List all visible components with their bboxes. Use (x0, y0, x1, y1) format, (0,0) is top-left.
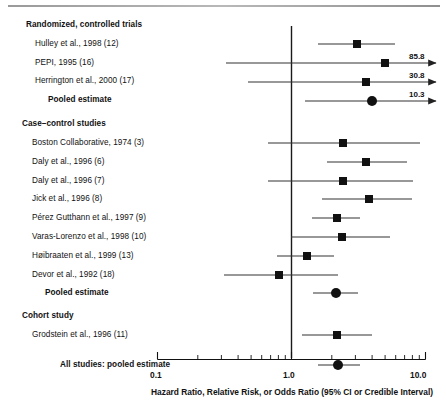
point-estimate-marker-jick (365, 195, 373, 203)
point-estimate-marker-daly-7 (339, 177, 347, 185)
forest-row-pooled-case-control (313, 288, 358, 298)
point-estimate-marker-grodstein (333, 331, 341, 339)
x-axis (158, 352, 426, 360)
point-estimate-marker-boston-collaborative (339, 139, 347, 147)
forest-row-boston-collaborative (268, 139, 420, 147)
forest-row-hoibraaten (277, 252, 334, 260)
annotation-pepi-upper-bound: 85.8 (409, 52, 425, 61)
forest-plot-figure: Randomized, controlled trials Hulley et … (0, 0, 447, 403)
group-header-randomized-trials: Randomized, controlled trials (26, 20, 142, 30)
study-label-varas-lorenzo: Varas-Lorenzo et al., 1998 (10) (32, 232, 146, 242)
forest-row-daly-7 (268, 177, 413, 185)
forest-row-jick (322, 195, 412, 203)
pooled-estimate-marker-all-studies (333, 360, 343, 370)
point-estimate-marker-daly-6 (362, 158, 370, 166)
study-label-hulley: Hulley et al., 1998 (12) (35, 39, 119, 49)
all-studies-pooled-label: All studies: pooled estimate (60, 360, 170, 370)
pooled-label-randomized-trials: Pooled estimate (48, 95, 112, 105)
axis-caption: Hazard Ratio, Relative Risk, or Odds Rat… (151, 387, 433, 397)
axis-tick-label-left: 0.1 (150, 370, 162, 380)
point-estimate-marker-varas-lorenzo (338, 233, 346, 241)
forest-row-perez-gutthann (312, 214, 360, 222)
point-estimate-marker-hulley (353, 40, 361, 48)
pooled-label-case-control: Pooled estimate (45, 288, 109, 298)
axis-tick-label-mid: 1.0 (283, 370, 295, 380)
forest-row-devor (224, 271, 338, 279)
forest-row-daly-6 (327, 158, 407, 166)
group-header-cohort-study: Cohort study (22, 311, 74, 321)
study-label-pepi: PEPI, 1995 (16) (35, 58, 94, 68)
study-label-hoibraaten: Høibraaten et al., 1999 (13) (32, 251, 134, 261)
annotation-pooled-upper-bound: 10.3 (409, 90, 425, 99)
axis-tick-label-right: 10.0 (410, 370, 426, 380)
top-divider-rule (8, 5, 440, 7)
point-estimate-marker-herrington (362, 78, 370, 86)
annotation-herrington-upper-bound: 30.8 (409, 71, 425, 80)
group-header-case-control: Case–control studies (22, 119, 106, 129)
study-label-boston-collaborative: Boston Collaborative, 1974 (3) (32, 138, 144, 148)
forest-row-pepi (226, 59, 436, 67)
point-estimate-marker-perez-gutthann (333, 214, 341, 222)
study-label-perez-gutthann: Pérez Gutthann et al., 1997 (9) (32, 213, 146, 223)
pooled-estimate-marker-case-control (331, 288, 341, 298)
forest-row-all-studies-pooled (318, 360, 360, 370)
point-estimate-marker-pepi (381, 59, 389, 67)
point-estimate-marker-hoibraaten (303, 252, 311, 260)
point-estimate-marker-devor (275, 271, 283, 279)
forest-row-hulley (318, 40, 395, 48)
study-label-jick: Jick et al., 1996 (8) (32, 194, 102, 204)
forest-row-varas-lorenzo (291, 233, 390, 241)
study-label-daly-6: Daly et al., 1996 (6) (32, 157, 105, 167)
forest-row-grodstein (302, 331, 372, 339)
study-label-daly-7: Daly et al., 1996 (7) (32, 176, 105, 186)
forest-row-herrington (248, 78, 436, 86)
study-label-herrington: Herrington et al., 2000 (17) (35, 76, 134, 86)
study-label-devor: Devor et al., 1992 (18) (32, 270, 115, 280)
study-label-grodstein: Grodstein et al., 1996 (11) (32, 330, 128, 340)
pooled-estimate-marker-randomized (367, 96, 377, 106)
